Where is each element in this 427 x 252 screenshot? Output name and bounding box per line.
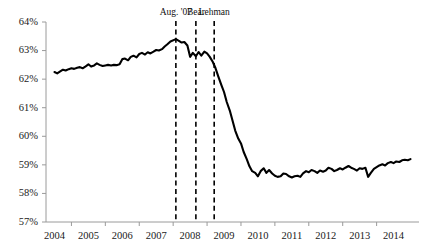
x-tick-label: 2004 [44,230,66,241]
line-chart: 57%58%59%60%61%62%63%64% 200420052006200… [0,0,427,252]
x-tick-label: 2007 [146,230,167,241]
x-tick-label: 2009 [214,230,235,241]
x-tick-label: 2008 [180,230,201,241]
y-tick-label: 64% [19,16,39,27]
y-tick-label: 62% [19,73,39,84]
y-tick-label: 63% [19,44,39,55]
y-tick-label: 61% [19,102,39,113]
y-tick-label: 60% [19,130,39,141]
x-tick-label: 2010 [247,230,268,241]
x-tick-label: 2012 [315,230,336,241]
x-tick-label: 2005 [78,230,99,241]
x-tick-label: 2014 [383,230,405,241]
y-tick-label: 57% [19,216,39,227]
y-tick-label: 59% [19,159,39,170]
x-tick-label: 2006 [112,230,133,241]
x-tick-label: 2011 [282,230,303,241]
chart-container: 57%58%59%60%61%62%63%64% 200420052006200… [0,0,427,252]
x-tick-label: 2013 [349,230,370,241]
y-tick-label: 58% [19,187,39,198]
event-label: Lehman [199,7,230,17]
